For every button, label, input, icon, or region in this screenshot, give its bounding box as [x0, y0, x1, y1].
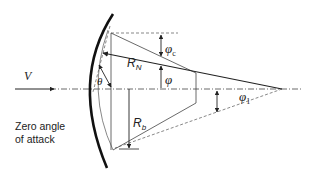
cone-outline	[111, 33, 196, 150]
theta-label: θ	[97, 75, 103, 87]
phi-label: φ	[165, 72, 172, 87]
phi1-label: φ1	[239, 89, 250, 106]
base-radius-label: Rb	[133, 116, 147, 132]
capsule-geometry-diagram: V RN θ Rb φc φ φ1 Zero angle of attack	[0, 0, 311, 177]
caption-line-1: Zero angle	[15, 120, 65, 132]
velocity-label: V	[24, 69, 33, 83]
nose-radius-label: RN	[127, 56, 142, 72]
caption-line-2: of attack	[15, 133, 55, 145]
cone-angle-label: φc	[165, 41, 176, 58]
